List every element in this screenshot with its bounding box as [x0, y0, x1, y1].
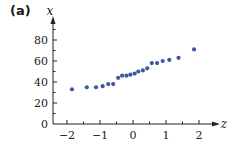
data-point	[120, 74, 124, 78]
x-tick-label: 0	[130, 129, 137, 142]
y-tick-label: 60	[34, 55, 48, 68]
data-point	[70, 87, 74, 91]
axes: xz	[47, 4, 228, 131]
data-point	[124, 74, 128, 78]
y-tick-label: 40	[34, 76, 48, 89]
data-point	[106, 82, 110, 86]
data-points	[70, 47, 196, 91]
y-tick-label: 0	[41, 118, 48, 131]
data-point	[133, 72, 137, 76]
data-point	[85, 85, 89, 89]
x-tick-label: 1	[163, 129, 170, 142]
data-point	[101, 84, 105, 88]
x-axis-label: z	[220, 117, 228, 131]
x-tick-label: −1	[92, 129, 108, 142]
data-point	[141, 68, 145, 72]
y-tick-label: 80	[34, 34, 48, 47]
data-point	[145, 66, 149, 70]
x-axis-arrow-icon	[212, 122, 220, 127]
data-point	[161, 59, 165, 63]
data-point	[155, 61, 159, 65]
y-tick-label: 20	[34, 97, 48, 110]
y-axis-label: x	[47, 4, 54, 18]
data-point	[167, 58, 171, 62]
ticks: 020406080−2−1012	[34, 30, 203, 143]
data-point	[150, 61, 154, 65]
x-tick-label: −2	[59, 129, 75, 142]
scatter-chart: xz 020406080−2−1012	[0, 0, 236, 149]
x-tick-label: 2	[196, 129, 203, 142]
data-point	[128, 73, 132, 77]
data-point	[136, 69, 140, 73]
data-point	[94, 85, 98, 89]
data-point	[192, 47, 196, 51]
data-point	[111, 82, 115, 86]
data-point	[116, 76, 120, 80]
data-point	[176, 56, 180, 60]
